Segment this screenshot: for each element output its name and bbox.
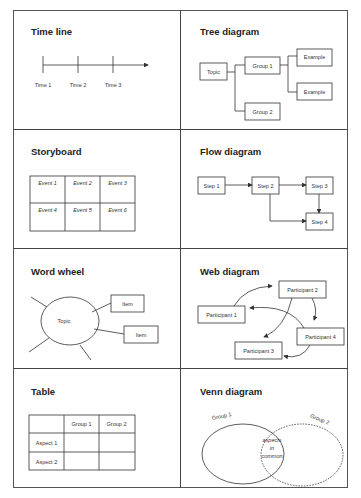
word-wheel-diagram bbox=[29, 295, 158, 360]
venn-overlap-line-3: common bbox=[261, 453, 282, 459]
venn-group-1-label: Group 1 bbox=[211, 411, 232, 421]
flow-step-4: Step 4 bbox=[312, 219, 328, 225]
table-row-aspect-2: Aspect 2 bbox=[36, 459, 57, 465]
wheel-item-2: Item bbox=[136, 332, 147, 338]
venn-group-2-label: Group 2 bbox=[309, 413, 330, 426]
time-label-3: Time 3 bbox=[105, 82, 122, 88]
event-4: Event 4 bbox=[38, 207, 57, 213]
wheel-topic: Topic bbox=[58, 318, 71, 324]
event-6: Event 6 bbox=[108, 207, 128, 213]
table-row-aspect-1: Aspect 1 bbox=[36, 440, 57, 446]
table-header-group-1: Group 1 bbox=[72, 421, 92, 427]
flow-step-3: Step 3 bbox=[312, 183, 328, 189]
tree-example-2: Example bbox=[304, 89, 325, 95]
time-label-1: Time 1 bbox=[35, 82, 52, 88]
timeline-diagram bbox=[43, 56, 148, 73]
tree-example-1: Example bbox=[304, 54, 325, 60]
participant-2: Participant 2 bbox=[287, 287, 318, 293]
table-header-group-2: Group 2 bbox=[107, 421, 127, 427]
event-2: Event 2 bbox=[73, 180, 92, 186]
event-3: Event 3 bbox=[108, 180, 128, 186]
event-5: Event 5 bbox=[73, 207, 93, 213]
time-label-2: Time 2 bbox=[70, 82, 87, 88]
venn-overlap-line-1: aspects bbox=[263, 437, 282, 443]
diagrams-canvas: Time 1 Time 2 Time 3 Topic Group 1 Group… bbox=[0, 0, 361, 498]
flow-step-1: Step 1 bbox=[204, 183, 220, 189]
participant-1: Participant 1 bbox=[206, 312, 237, 318]
participant-3: Participant 3 bbox=[243, 348, 274, 354]
wheel-item-1: Item bbox=[122, 301, 133, 307]
participant-4: Participant 4 bbox=[305, 334, 336, 340]
tree-topic: Topic bbox=[207, 69, 220, 75]
tree-group-2: Group 2 bbox=[253, 109, 273, 115]
tree-group-1: Group 1 bbox=[253, 63, 273, 69]
flow-step-2: Step 2 bbox=[258, 183, 274, 189]
venn-overlap-line-2: in bbox=[270, 445, 274, 451]
event-1: Event 1 bbox=[38, 180, 57, 186]
